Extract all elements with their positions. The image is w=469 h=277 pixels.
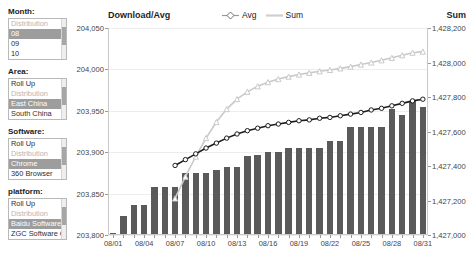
line-series-layer <box>108 28 428 235</box>
x-axis-label: 08/04 <box>135 239 154 248</box>
avg-point-marker[interactable] <box>214 141 218 145</box>
avg-point-marker[interactable] <box>194 152 198 156</box>
avg-point-marker[interactable] <box>338 114 342 118</box>
legend-item-sum[interactable]: Sum <box>266 10 303 20</box>
listitem-area-0[interactable]: Roll Up <box>9 79 66 89</box>
line-avg <box>175 99 423 165</box>
chart-title: Download/Avg <box>108 10 170 20</box>
scrollbar-thumb-area[interactable] <box>62 87 67 105</box>
x-tick <box>175 235 176 238</box>
avg-point-marker[interactable] <box>400 101 404 105</box>
avg-point-marker[interactable] <box>297 119 301 123</box>
x-tick <box>340 235 341 238</box>
y-tick-right <box>428 166 431 167</box>
filter-block-month: Month:Distribution080910 <box>8 6 70 60</box>
sum-point-marker[interactable] <box>317 69 322 74</box>
sum-point-marker[interactable] <box>338 66 343 71</box>
avg-point-marker[interactable] <box>390 104 394 108</box>
filter-title-software: Software: <box>8 126 70 137</box>
x-tick <box>382 235 383 238</box>
avg-point-marker[interactable] <box>266 124 270 128</box>
sum-point-marker[interactable] <box>286 74 291 79</box>
avg-point-marker[interactable] <box>255 126 259 130</box>
sum-point-marker[interactable] <box>327 67 332 72</box>
filter-title-month: Month: <box>8 6 70 17</box>
scrollbar-thumb-platform[interactable] <box>62 207 67 225</box>
x-tick <box>206 235 207 238</box>
avg-point-marker[interactable] <box>348 112 352 116</box>
y-axis-label-left: 203,850 <box>0 189 104 198</box>
avg-point-marker[interactable] <box>276 122 280 126</box>
avg-point-marker[interactable] <box>369 108 373 112</box>
listitem-software-3[interactable]: 360 Browser <box>9 169 66 179</box>
avg-point-marker[interactable] <box>235 132 239 136</box>
x-tick <box>247 235 248 238</box>
x-axis-label: 08/19 <box>290 239 309 248</box>
x-tick <box>413 235 414 238</box>
avg-point-marker[interactable] <box>359 110 363 114</box>
listitem-month-2[interactable]: 09 <box>9 39 66 49</box>
sum-point-marker[interactable] <box>265 80 270 85</box>
legend-item-avg[interactable]: Avg <box>222 10 257 20</box>
sum-point-marker[interactable] <box>307 70 312 75</box>
avg-point-marker[interactable] <box>173 163 177 167</box>
sum-point-marker[interactable] <box>369 60 374 65</box>
sum-point-marker[interactable] <box>276 76 281 81</box>
y-axis-label-left: 203,900 <box>0 148 104 157</box>
x-axis-label: 08/07 <box>166 239 185 248</box>
avg-point-marker[interactable] <box>328 115 332 119</box>
x-tick <box>227 235 228 238</box>
avg-point-marker[interactable] <box>286 120 290 124</box>
avg-point-marker[interactable] <box>421 97 425 101</box>
sum-point-marker[interactable] <box>410 50 415 55</box>
chart-panel: Download/Avg Sum Avg Sum 203,800203,8502… <box>74 6 466 272</box>
y-axis-label-left: 204,050 <box>0 24 104 33</box>
avg-point-marker[interactable] <box>245 128 249 132</box>
y-axis-label-right: 1,427,400 <box>432 162 466 171</box>
x-tick <box>361 235 362 238</box>
avg-point-marker[interactable] <box>183 157 187 161</box>
sum-point-marker[interactable] <box>358 62 363 67</box>
legend-label-avg: Avg <box>242 10 257 20</box>
x-tick <box>392 235 393 238</box>
listitem-area-1[interactable]: Distribution <box>9 89 66 99</box>
avg-marker-icon <box>222 11 239 20</box>
listitem-platform-0[interactable]: Roll Up <box>9 199 66 209</box>
y-tick-right <box>428 28 431 29</box>
sum-point-marker[interactable] <box>296 72 301 77</box>
sum-point-marker[interactable] <box>379 58 384 63</box>
sum-point-marker[interactable] <box>255 84 260 89</box>
listitem-month-3[interactable]: 10 <box>9 49 66 59</box>
scrollbar-software[interactable] <box>61 139 66 179</box>
x-tick <box>371 235 372 238</box>
x-axis-label: 08/01 <box>104 239 123 248</box>
chart-legend: Avg Sum <box>222 10 303 20</box>
avg-point-marker[interactable] <box>410 99 414 103</box>
y-axis-label-right: 1,428,200 <box>432 24 466 33</box>
listitem-software-2[interactable]: Chrome <box>9 159 66 169</box>
avg-point-marker[interactable] <box>317 116 321 120</box>
legend-label-sum: Sum <box>286 10 303 20</box>
dashboard-root: Month:Distribution080910Area:Roll UpDist… <box>0 0 469 277</box>
avg-point-marker[interactable] <box>379 106 383 110</box>
y-axis-label-left: 204,000 <box>0 65 104 74</box>
y-tick-left <box>105 235 108 236</box>
listbox-software[interactable]: Roll UpDistributionChrome360 Browser <box>8 138 67 180</box>
sum-point-marker[interactable] <box>389 55 394 60</box>
avg-point-marker[interactable] <box>204 146 208 150</box>
y-tick-right <box>428 201 431 202</box>
sum-point-marker[interactable] <box>400 53 405 58</box>
listitem-platform-2[interactable]: Baidu Software <box>9 219 66 229</box>
sum-point-marker[interactable] <box>172 196 177 201</box>
sum-point-marker[interactable] <box>420 49 425 54</box>
sum-point-marker[interactable] <box>348 64 353 69</box>
x-tick <box>237 235 238 238</box>
x-tick <box>299 235 300 238</box>
avg-point-marker[interactable] <box>307 118 311 122</box>
x-tick <box>268 235 269 238</box>
x-axis-label: 08/22 <box>321 239 340 248</box>
avg-point-marker[interactable] <box>225 136 229 140</box>
listitem-platform-1[interactable]: Distribution <box>9 209 66 219</box>
right-axis-title: Sum <box>446 10 466 20</box>
x-axis-label: 08/28 <box>383 239 402 248</box>
